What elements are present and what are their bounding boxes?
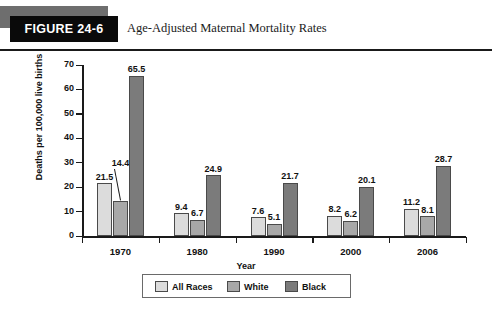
x-axis-tick [82, 237, 83, 243]
bar-value-label: 24.9 [196, 164, 230, 174]
bar-value-label: 28.7 [427, 154, 461, 164]
bar [343, 221, 358, 236]
y-axis-tick-label: 0 [52, 230, 74, 240]
y-axis-tick-label: 70 [52, 59, 74, 69]
x-axis-title: Year [0, 261, 492, 271]
y-axis-tick-label-wrap: 30 [50, 157, 74, 168]
bar [206, 175, 221, 236]
x-axis-group-label: 1990 [244, 246, 304, 257]
legend-swatch [285, 281, 298, 292]
bar [283, 183, 298, 236]
x-axis-line [82, 236, 466, 238]
y-axis-tick-label: 50 [52, 108, 74, 118]
bar [113, 201, 128, 236]
bar-value-label: 20.1 [350, 175, 384, 185]
y-axis-tick-label-wrap: 60 [50, 83, 74, 94]
y-axis-tick [76, 138, 82, 139]
figure-header: FIGURE 24-6 Age-Adjusted Maternal Mortal… [0, 0, 492, 52]
y-axis-tick-label-wrap: 0 [50, 230, 74, 241]
bar [190, 220, 205, 236]
y-axis-tick-label-wrap: 40 [50, 132, 74, 143]
x-axis-tick [159, 237, 160, 243]
y-axis-tick-label-wrap: 20 [50, 181, 74, 192]
legend-swatch [155, 281, 168, 292]
bar [436, 166, 451, 236]
bar [129, 76, 144, 236]
figure-title: Age-Adjusted Maternal Mortality Rates [127, 21, 327, 36]
y-axis-tick-label: 60 [52, 83, 74, 93]
y-axis-tick [76, 162, 82, 163]
bar [420, 216, 435, 236]
chart-legend: All RacesWhiteBlack [142, 274, 351, 298]
x-axis-tick [389, 237, 390, 243]
legend-item: Black [285, 280, 326, 293]
legend-label: White [244, 282, 269, 292]
legend-label: All Races [172, 282, 213, 292]
bar [267, 224, 282, 236]
header-divider [0, 49, 492, 51]
y-axis-tick-label-wrap: 70 [50, 59, 74, 70]
legend-swatch [227, 281, 240, 292]
x-axis-tick [312, 237, 313, 243]
bar [97, 183, 112, 236]
y-axis-title: Deaths per 100,000 live births [34, 42, 44, 192]
legend-item: White [227, 280, 269, 293]
y-axis-tick [76, 89, 82, 90]
x-axis-tick [466, 237, 467, 243]
y-axis-tick-label: 30 [52, 157, 74, 167]
x-axis-tick [236, 237, 237, 243]
bar [359, 187, 374, 236]
y-axis-tick [76, 113, 82, 114]
y-axis-tick [76, 211, 82, 212]
x-axis-group-label: 1980 [167, 246, 227, 257]
bar-chart: Deaths per 100,000 live births 010203040… [0, 52, 492, 314]
x-axis-group-label: 2006 [398, 246, 458, 257]
y-axis-tick-label-wrap: 50 [50, 108, 74, 119]
figure-banner: FIGURE 24-6 [10, 16, 118, 42]
x-axis-group-label: 1970 [90, 246, 150, 257]
y-axis-tick [76, 65, 82, 66]
x-axis-group-label: 2000 [321, 246, 381, 257]
y-axis-line [82, 65, 84, 237]
legend-label: Black [302, 282, 326, 292]
legend-item: All Races [155, 280, 213, 293]
y-axis-tick-label: 40 [52, 132, 74, 142]
bar-value-label: 21.7 [273, 171, 307, 181]
y-axis-tick-label: 10 [52, 206, 74, 216]
bar-value-label: 65.5 [119, 64, 153, 74]
y-axis-tick-label-wrap: 10 [50, 206, 74, 217]
y-axis-tick-label: 20 [52, 181, 74, 191]
y-axis-tick [76, 187, 82, 188]
figure-number-label: FIGURE 24-6 [10, 16, 118, 42]
